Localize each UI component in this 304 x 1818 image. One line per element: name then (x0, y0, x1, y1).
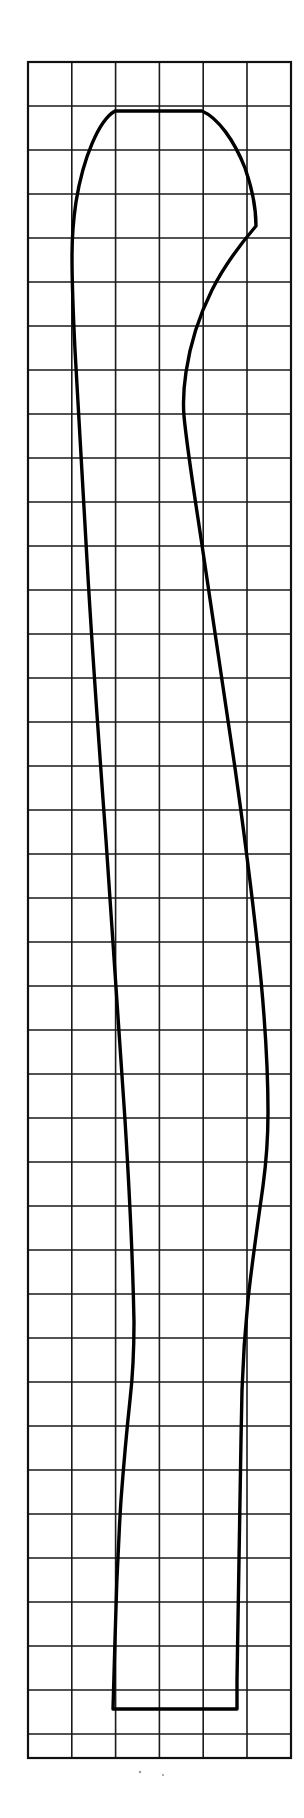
figure-canvas (0, 0, 304, 1818)
figure-svg (0, 0, 304, 1818)
speck-left (139, 1771, 141, 1773)
speck-right (162, 1774, 164, 1776)
